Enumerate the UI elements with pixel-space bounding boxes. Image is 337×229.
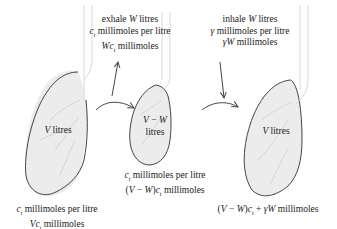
transition-arrow-1-icon [96, 102, 134, 110]
lung-left-caption: ct millimoles per litre Vct millimoles [2, 204, 112, 229]
transition-arrow-2-icon [202, 103, 238, 110]
lung-middle-label: V − Wlitres [135, 114, 175, 138]
exhale-label: exhale W litres ct millimoles per litre … [75, 14, 185, 56]
lung-right-label: V litres [254, 125, 298, 137]
inhale-arrow-icon [220, 62, 224, 98]
lung-right-caption: (V − W)ct + γW millimoles [198, 204, 337, 219]
exhale-arrow-icon [112, 62, 118, 96]
inhale-label: inhale W litres γ millimoles per litre γ… [195, 14, 305, 49]
lung-middle-caption: ct millimoles per litre (V − W)ct millim… [100, 170, 230, 201]
lung-left-label: V litres [38, 124, 78, 136]
